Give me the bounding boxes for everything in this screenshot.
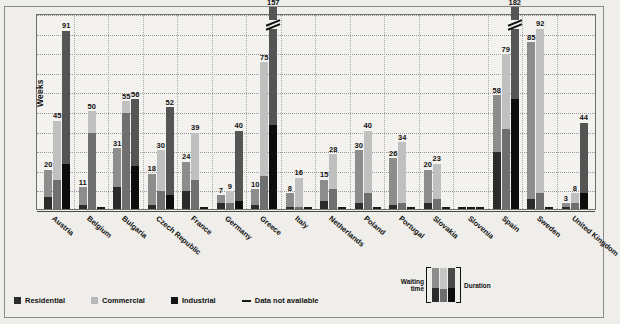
waiting-time-segment — [527, 199, 535, 209]
waiting-time-segment — [62, 164, 70, 209]
bar-value-label: 34 — [398, 134, 406, 142]
bar-industrial-not-available — [476, 207, 484, 209]
legend-swatch-ind — [171, 297, 178, 304]
waiting-time-segment — [79, 205, 87, 209]
duration-segment — [502, 54, 510, 128]
x-label-cell: Bulgaria — [108, 212, 143, 270]
waiting-segment — [440, 289, 447, 302]
waiting-time-segment — [182, 191, 190, 209]
x-axis-label-united-kingdom: United Kingdom — [570, 214, 620, 258]
bar-residential: 8 — [286, 193, 294, 209]
bar-residential: 11 — [79, 187, 87, 209]
duration-segment — [131, 99, 139, 166]
bar-commercial: 40 — [364, 131, 372, 209]
waiting-time-segment — [329, 189, 337, 209]
bar-residential: 20 — [424, 170, 432, 209]
bar-industrial: 40 — [235, 131, 243, 209]
duration-segment — [355, 150, 363, 203]
bar-industrial-not-available — [338, 207, 346, 209]
duration-segment — [398, 142, 406, 203]
bar-residential-not-available — [458, 207, 466, 209]
x-axis-label-austria: Austria — [51, 214, 77, 238]
x-axis-label-spain: Spain — [501, 214, 522, 234]
duration-segment — [389, 158, 397, 205]
x-label-cell: Poland — [351, 212, 386, 270]
bar-value-label: 85 — [527, 34, 535, 42]
duration-segment — [251, 189, 259, 205]
bar-value-label: 30 — [157, 142, 165, 150]
x-label-cell: Greece — [247, 212, 282, 270]
duration-segment — [88, 111, 96, 133]
bar-commercial: 50 — [88, 111, 96, 209]
bar-group-sweden: 8592 — [523, 15, 558, 209]
duration-segment — [166, 107, 174, 195]
bar-residential: 31 — [113, 148, 121, 209]
bracket-sample-bar-commercial — [440, 268, 447, 302]
bar-value-label: 30 — [355, 142, 363, 150]
x-label-cell: Sweden — [524, 212, 559, 270]
bar-group-slovenia — [454, 15, 489, 209]
waiting-time-segment — [571, 203, 579, 209]
bar-commercial: 34 — [398, 142, 406, 209]
bar-industrial: 44 — [580, 123, 588, 209]
waiting-time-segment — [320, 201, 328, 209]
plot-area: Weeks 0102030405060708090100 20459111503… — [36, 14, 596, 210]
duration-segment — [260, 62, 268, 176]
legend-swatch-res — [14, 297, 21, 304]
bar-value-label: 52 — [166, 99, 174, 107]
duration-segment — [432, 268, 439, 288]
bar-industrial-not-available — [373, 207, 381, 209]
bar-residential: 10 — [251, 189, 259, 209]
waiting-segment — [432, 288, 439, 302]
bar-commercial: 23 — [433, 164, 441, 209]
bar-commercial: 9 — [226, 191, 234, 209]
waiting-time-segment — [269, 125, 277, 209]
waiting-time-label: Waiting time — [400, 278, 424, 293]
duration-segment — [571, 193, 579, 203]
bar-group-czech-republic: 183052 — [144, 15, 179, 209]
waiting-time-segment — [122, 113, 130, 209]
duration-segment — [235, 131, 243, 202]
duration-segment — [320, 180, 328, 202]
legend-swatch-com — [91, 297, 98, 304]
waiting-time-segment — [433, 199, 441, 209]
bar-value-label: 23 — [433, 155, 441, 163]
waiting-time-segment — [502, 129, 510, 209]
duration-segment — [286, 193, 294, 207]
bar-value-label: 7 — [219, 187, 223, 195]
x-label-cell: Netherlands — [316, 212, 351, 270]
bar-industrial: 52 — [166, 107, 174, 209]
waiting-time-segment — [493, 152, 501, 209]
duration-segment — [329, 154, 337, 189]
legend-label: Industrial — [182, 296, 216, 305]
waiting-time-label-line2: time — [411, 285, 424, 292]
bar-group-greece: 1075157 — [247, 15, 282, 209]
duration-segment — [122, 101, 130, 113]
bar-value-label: 50 — [88, 103, 96, 111]
waiting-time-label-line1: Waiting — [401, 278, 424, 285]
bar-industrial-not-available — [97, 207, 105, 209]
bar-group-poland: 3040 — [351, 15, 386, 209]
bar-value-label: 45 — [53, 112, 61, 120]
bar-value-label: 92 — [536, 20, 544, 28]
bar-industrial-not-available — [442, 207, 450, 209]
bar-residential: 85 — [527, 42, 535, 209]
duration-segment — [440, 268, 447, 289]
bar-residential: 20 — [44, 170, 52, 209]
bar-value-label: 91 — [62, 22, 70, 30]
bar-commercial: 16 — [295, 178, 303, 209]
duration-segment — [191, 133, 199, 180]
bar-group-france: 2439 — [178, 15, 213, 209]
bar-value-label: 16 — [295, 169, 303, 177]
bar-industrial-not-available — [304, 207, 312, 209]
bar-value-label: 24 — [182, 153, 190, 161]
waiting-time-segment — [398, 203, 406, 209]
x-label-cell: Germany — [212, 212, 247, 270]
duration-segment — [511, 7, 519, 99]
waiting-time-segment — [580, 193, 588, 209]
legend-item-residential: Residential — [14, 296, 65, 305]
waiting-time-segment — [166, 195, 174, 209]
duration-segment — [53, 121, 61, 180]
x-label-cell: Austria — [39, 212, 74, 270]
